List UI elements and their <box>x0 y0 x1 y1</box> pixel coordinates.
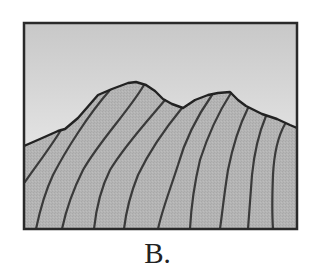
mountain-figure: B. <box>0 0 315 277</box>
figure-label: B. <box>0 236 315 270</box>
